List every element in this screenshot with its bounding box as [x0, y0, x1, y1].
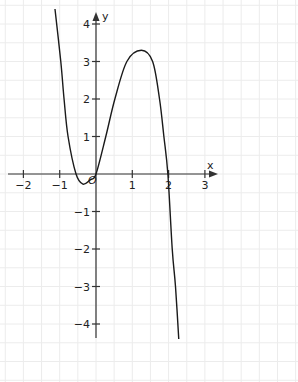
- y-tick-label: −4: [74, 318, 90, 331]
- y-tick-label: 2: [83, 93, 90, 106]
- y-tick-label: −3: [74, 281, 90, 294]
- x-tick-label: −2: [15, 179, 31, 192]
- y-tick-label: 3: [83, 56, 90, 69]
- y-tick-label: 4: [83, 18, 90, 31]
- x-axis-label: x: [207, 159, 214, 172]
- y-tick-label: 1: [83, 131, 90, 144]
- x-tick-label: −1: [52, 179, 68, 192]
- y-tick-label: −2: [74, 243, 90, 256]
- x-tick-label: 3: [201, 179, 208, 192]
- y-axis-label: y: [102, 10, 109, 23]
- y-tick-label: −1: [74, 206, 90, 219]
- y-axis-arrow-icon: [93, 12, 100, 21]
- x-tick-label: 1: [129, 179, 136, 192]
- function-graph: x y O −2−11234321−1−2−3−4: [0, 0, 298, 382]
- grid-lines: [0, 0, 298, 382]
